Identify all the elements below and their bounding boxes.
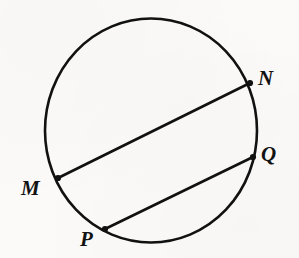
chord-pq (105, 157, 253, 229)
vertex-label-n: N (258, 68, 273, 89)
vertex-label-q: Q (261, 144, 276, 165)
figure-canvas (0, 0, 299, 258)
geometry-figure: MNPQ (0, 0, 299, 258)
circle-outline (45, 19, 257, 243)
vertex-dot-p (102, 226, 108, 232)
vertex-dot-n (247, 80, 253, 86)
vertex-label-m: M (21, 178, 40, 199)
vertex-dot-q (250, 154, 256, 160)
chord-mn (58, 83, 250, 178)
vertex-dot-m (55, 175, 61, 181)
vertex-label-p: P (80, 229, 93, 250)
